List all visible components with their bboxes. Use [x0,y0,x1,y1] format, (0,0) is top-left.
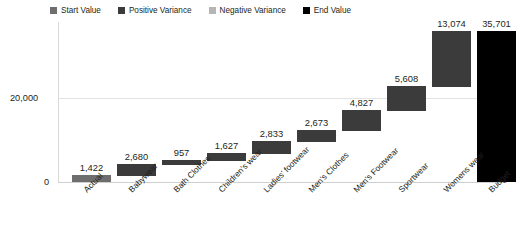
bar-children-s-wear[interactable]: 1,627 [207,153,246,161]
bar-rect [72,175,111,182]
bar-rect [117,164,156,176]
waterfall-chart: Start Value Positive Variance Negative V… [0,0,521,237]
bar-rect [162,160,201,165]
legend-swatch-start-value [50,7,57,14]
bar-value-label: 5,608 [395,74,418,84]
bar-value-label: 2,833 [260,129,283,139]
x-axis-tickmark [362,183,363,186]
bar-rect [252,141,291,154]
x-axis-tickmark [92,183,93,186]
bar-value-label: 957 [174,148,190,158]
legend-item-positive-variance[interactable]: Positive Variance [118,6,192,15]
bar-rect [297,130,336,142]
legend-swatch-negative-variance [209,7,216,14]
legend-swatch-end-value [303,7,310,14]
bar-rect [477,31,516,182]
legend-item-start-value[interactable]: Start Value [50,6,101,15]
x-axis-tickmark [452,183,453,186]
bar-babywear[interactable]: 2,680 [117,164,156,176]
bar-men-s-footwear[interactable]: 4,827 [342,110,381,131]
bar-ladies-footwear[interactable]: 2,833 [252,141,291,154]
bar-rect [432,31,471,87]
x-axis-tickmark [272,183,273,186]
bar-value-label: 1,627 [215,141,238,151]
bar-actual[interactable]: 1,422 [72,175,111,182]
y-axis-tick-label-20000: 20,000 [10,93,38,103]
bar-men-s-clothes[interactable]: 2,673 [297,130,336,142]
x-axis-tickmark [497,183,498,186]
bar-value-label: 4,827 [350,98,373,108]
bar-value-label: 13,074 [437,19,466,29]
x-axis-tickmark [317,183,318,186]
bar-bath-clothes[interactable]: 957 [162,160,201,165]
bar-rect [342,110,381,131]
legend-label-positive-variance: Positive Variance [129,6,192,15]
legend-label-end-value: End Value [314,6,351,15]
bar-value-label: 35,701 [482,19,511,29]
x-axis-tickmark [407,183,408,186]
x-axis-tickmark [182,183,183,186]
legend-label-start-value: Start Value [61,6,101,15]
bar-rect [387,86,426,111]
plot-area: 1,4222,6809571,6272,8332,6734,8275,60813… [58,22,507,183]
legend-label-negative-variance: Negative Variance [220,6,286,15]
bar-budget[interactable]: 35,701 [477,31,516,182]
bar-value-label: 2,680 [125,152,148,162]
bar-value-label: 2,673 [305,118,328,128]
bar-sportwear[interactable]: 5,608 [387,86,426,111]
x-axis-tickmark [137,183,138,186]
bar-womens-wear[interactable]: 13,074 [432,31,471,87]
bar-value-label: 1,422 [80,163,103,173]
legend-swatch-positive-variance [118,7,125,14]
y-axis-line [58,22,59,183]
y-axis-tick-label-0: 0 [44,177,49,187]
bar-rect [207,153,246,161]
chart-legend: Start Value Positive Variance Negative V… [50,4,351,16]
legend-item-negative-variance[interactable]: Negative Variance [209,6,286,15]
baseline-gridline-0 [58,182,507,183]
x-axis-tickmark [227,183,228,186]
gridline-20000 [58,98,507,99]
legend-item-end-value[interactable]: End Value [303,6,351,15]
